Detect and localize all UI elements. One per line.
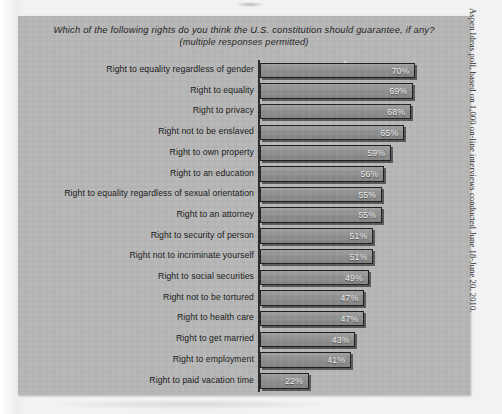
- bar-row: Right to an attorney55%: [18, 205, 470, 226]
- bar-category-label: Right not to incriminate yourself: [24, 250, 254, 261]
- bar-row: Right to an education56%: [18, 164, 470, 185]
- chart-panel: Which of the following rights do you thi…: [18, 16, 470, 395]
- bar-category-label: Right to employment: [24, 354, 254, 365]
- bar-value-label: 43%: [332, 335, 350, 346]
- bar-row: Right to security of person51%: [18, 226, 470, 247]
- bar-category-label: Right to social securities: [24, 271, 254, 282]
- bar: 47%: [260, 311, 364, 327]
- bar-category-label: Right to an attorney: [24, 209, 254, 220]
- bar-value-label: 51%: [350, 231, 368, 242]
- bar-row: Right not to be tortured47%: [18, 288, 470, 309]
- bar: 69%: [260, 83, 413, 99]
- bar-row: Right to privacy68%: [18, 101, 470, 122]
- bar: 70%: [260, 63, 415, 79]
- bar-category-label: Right to paid vacation time: [24, 375, 254, 386]
- bar-value-label: 47%: [341, 293, 359, 304]
- bar-value-label: 65%: [381, 128, 399, 139]
- bar: 65%: [260, 125, 404, 141]
- chart-title: Which of the following rights do you thi…: [32, 23, 456, 36]
- bar-category-label: Right to health care: [24, 312, 254, 323]
- bar-row: Right to own property59%: [18, 143, 470, 164]
- bar-category-label: Right not to be enslaved: [24, 126, 254, 137]
- bar-value-label: 70%: [392, 66, 410, 77]
- bar: 68%: [260, 104, 411, 120]
- bar-row: Right not to incriminate yourself51%: [18, 246, 470, 267]
- bar-row: Right to social securities49%: [18, 267, 470, 288]
- source-caption: Aspen Ideas poll, based on 1,000 on-line…: [468, 8, 478, 388]
- bar: 51%: [260, 228, 373, 244]
- scan-artifact-bottom: [60, 400, 320, 409]
- bar-value-label: 41%: [327, 355, 345, 366]
- bar: 59%: [260, 145, 391, 161]
- scan-artifact-top: [236, 2, 264, 7]
- chart-title-block: Which of the following rights do you thi…: [32, 23, 456, 49]
- bar-row: Right to get married43%: [18, 329, 470, 350]
- bar-row: Right to equality regardless of gender70…: [18, 60, 470, 81]
- bar-category-label: Right to equality: [24, 85, 254, 96]
- bar: 41%: [260, 352, 351, 368]
- bar-row: Right to employment41%: [18, 350, 470, 371]
- bar-value-label: 68%: [387, 107, 405, 118]
- bar-category-label: Right to security of person: [24, 230, 254, 241]
- plot-area: Right to equality regardless of gender70…: [18, 60, 470, 392]
- bar-category-label: Right to equality regardless of gender: [24, 64, 254, 75]
- bar-value-label: 55%: [358, 210, 376, 221]
- bar-value-label: 69%: [389, 86, 407, 97]
- bar: 22%: [260, 373, 309, 389]
- bar-value-label: 56%: [361, 169, 379, 180]
- bar-value-label: 55%: [358, 190, 376, 201]
- bar-row: Right to paid vacation time22%: [18, 371, 470, 392]
- bar: 43%: [260, 332, 355, 348]
- bar-category-label: Right not to be tortured: [24, 292, 254, 303]
- bar-value-label: 47%: [341, 314, 359, 325]
- bar-value-label: 49%: [345, 273, 363, 284]
- bar: 56%: [260, 166, 384, 182]
- bar-value-label: 51%: [350, 252, 368, 263]
- bar-value-label: 59%: [367, 148, 385, 159]
- bar: 51%: [260, 249, 373, 265]
- chart-subtitle: (multiple responses permitted): [32, 36, 456, 49]
- bar-category-label: Right to equality regardless of sexual o…: [24, 188, 254, 199]
- bar: 49%: [260, 270, 369, 286]
- bar-category-label: Right to privacy: [24, 105, 254, 116]
- bar-row: Right to health care47%: [18, 308, 470, 329]
- bar-row: Right not to be enslaved65%: [18, 122, 470, 143]
- bar: 55%: [260, 187, 382, 203]
- bar: 47%: [260, 290, 364, 306]
- bar-category-label: Right to get married: [24, 333, 254, 344]
- bar-value-label: 22%: [285, 376, 303, 387]
- bar: 55%: [260, 207, 382, 223]
- bar-row: Right to equality regardless of sexual o…: [18, 184, 470, 205]
- bar-row: Right to equality69%: [18, 81, 470, 102]
- bar-category-label: Right to own property: [24, 147, 254, 158]
- bar-category-label: Right to an education: [24, 168, 254, 179]
